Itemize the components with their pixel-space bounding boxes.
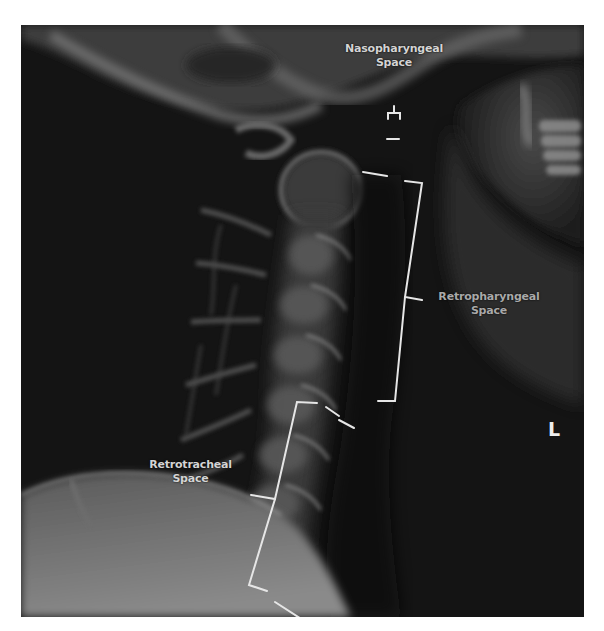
retropharyngeal-bracket — [363, 172, 422, 401]
label-line: Space — [338, 56, 450, 70]
nasopharyngeal-bracket — [387, 106, 400, 139]
label-nasopharyngeal-space: Nasopharyngeal Space — [338, 42, 450, 70]
label-line: Retropharyngeal — [429, 290, 549, 304]
annotation-overlay — [21, 25, 584, 617]
label-line: Space — [138, 472, 243, 486]
tick-mark — [326, 407, 339, 416]
label-retrotracheal-space: Retrotracheal Space — [138, 458, 243, 486]
label-retropharyngeal-space: Retropharyngeal Space — [429, 290, 549, 318]
retrotracheal-bracket — [249, 402, 317, 617]
xray-image: Nasopharyngeal Space Retropharyngeal Spa… — [21, 25, 584, 617]
orientation-marker-left: L — [548, 418, 560, 440]
label-line: Space — [429, 304, 549, 318]
tick-mark — [339, 420, 354, 428]
label-line: Nasopharyngeal — [338, 42, 450, 56]
label-line: Retrotracheal — [138, 458, 243, 472]
